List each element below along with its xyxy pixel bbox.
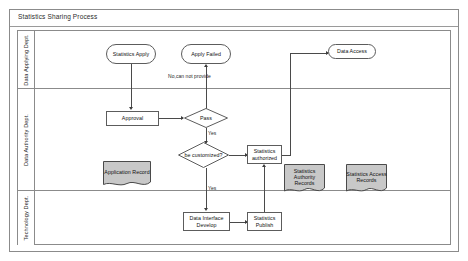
swimlane-pool: Data Applying Dept. Data Authority Dept.… — [17, 30, 451, 245]
edge-pass-to-be-customized-line — [206, 128, 207, 142]
lane-label-data-applying-dept: Data Applying Dept. — [23, 34, 30, 86]
edge-apply-to-approval-line — [131, 64, 132, 108]
edge-authorized-to-access-seg2 — [290, 53, 291, 156]
edge-publish-to-authorized-arrow — [262, 164, 266, 167]
node-data-interface-develop-label: Data Interface Develop — [184, 215, 229, 227]
node-statistics-publish[interactable]: Statistics Publish — [247, 212, 282, 231]
node-be-customized-label: be customized? — [178, 152, 229, 158]
node-statistics-authority-records-label: Statistics Authority Records — [284, 168, 325, 192]
node-pass-label: Pass — [184, 115, 228, 121]
edge-approval-to-pass-line — [159, 118, 183, 119]
lane-label-data-authority-dept: Data Authority Dept. — [23, 92, 30, 188]
node-statistics-apply-label: Statistics Apply — [113, 51, 149, 57]
edge-label-no-cannot-provide: No,can not provide — [168, 73, 211, 79]
edge-pass-to-apply-failed-arrow — [204, 64, 208, 67]
node-statistics-publish-label: Statistics Publish — [248, 215, 281, 227]
edge-authorized-to-access-seg3 — [290, 53, 328, 54]
lane-header-technology-dept: Technology Dept. — [18, 191, 35, 245]
node-data-interface-develop[interactable]: Data Interface Develop — [183, 212, 230, 231]
page-title: Statistics Sharing Process — [18, 13, 97, 20]
lane-header-data-applying-dept: Data Applying Dept. — [18, 31, 35, 88]
node-statistics-authorized[interactable]: Statistics authorized — [247, 145, 282, 164]
node-application-record-label: Application Record — [103, 169, 151, 180]
lane-label-technology-dept: Technology Dept. — [23, 193, 30, 243]
node-application-record[interactable]: Application Record — [103, 161, 151, 188]
node-apply-failed[interactable]: Apply Failed — [181, 44, 231, 64]
node-statistics-authority-records[interactable]: Statistics Authority Records — [284, 164, 325, 195]
edge-be-customized-to-develop-arrow — [204, 208, 208, 211]
node-be-customized[interactable]: be customized? — [178, 142, 229, 168]
flowchart-canvas: Statistics Sharing Process Data Applying… — [0, 0, 468, 261]
node-approval-label: Approval — [122, 115, 143, 121]
edge-publish-to-authorized-line — [264, 167, 265, 212]
node-statistics-access-records[interactable]: Statistics Access Records — [346, 164, 387, 195]
node-data-access[interactable]: Data Access — [328, 44, 376, 59]
edge-label-yes-pass: Yes — [208, 130, 216, 136]
node-statistics-authorized-label: Statistics authorized — [248, 148, 281, 160]
node-apply-failed-label: Apply Failed — [191, 51, 221, 57]
lane-header-data-authority-dept: Data Authority Dept. — [18, 89, 35, 190]
edge-apply-to-approval-arrow — [129, 107, 133, 110]
node-pass[interactable]: Pass — [184, 108, 228, 128]
node-approval[interactable]: Approval — [106, 111, 159, 126]
lane-technology-dept: Technology Dept. — [18, 191, 450, 245]
node-data-access-label: Data Access — [337, 48, 367, 54]
edge-label-yes-customized: Yes — [208, 185, 216, 191]
node-statistics-access-records-label: Statistics Access Records — [346, 171, 387, 188]
diagram-title-bar: Statistics Sharing Process — [10, 10, 458, 27]
node-statistics-apply[interactable]: Statistics Apply — [106, 44, 156, 64]
edge-be-customized-to-develop-line — [206, 168, 207, 209]
lane-data-applying-dept: Data Applying Dept. — [18, 31, 450, 89]
